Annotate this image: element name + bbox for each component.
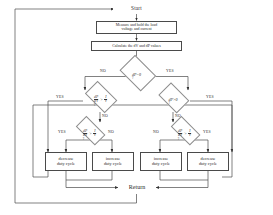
decision-2-right-query: ? [168,102,177,105]
decision-2-left-label: dP dV > I V ? [94,96,108,108]
action-decrease-duty-cycle-2: decrease duty cycle [187,152,229,171]
decision-3-right-label: dP dV > I V ? [178,130,192,142]
edge-label-d2l-no: NO [102,114,108,118]
decision-3-left-label: dP dV > I V ? [83,130,97,142]
edge-label-d2r-yes: YES [206,95,214,99]
action-4-line-2: duty cycle [199,162,217,167]
edge-label-d2l-yes: YES [56,95,64,99]
action-increase-duty-cycle-1: increase duty cycle [92,152,134,171]
edge-label-d3l-yes: YES [58,130,66,134]
decision-1-label: dP=0 ? [132,72,141,80]
flowchart-canvas: Start Measure and hold the load voltage … [0,0,273,215]
node-measure: Measure and hold the load voltage and cu… [96,21,177,35]
decision-3-right-query: ? [178,138,192,141]
frac-den: V [93,134,96,138]
action-increase-duty-cycle-2: increase duty cycle [140,152,182,171]
frac-den: V [188,134,191,138]
action-1-line-2: duty cycle [57,162,75,167]
edge-label-d3l-no: NO [108,130,114,134]
decision-2-left-query: ? [94,104,108,107]
relation-operator: > [183,131,187,136]
frac-den: V [104,100,107,104]
decision-1-query: ? [132,77,141,80]
action-2-line-2: duty cycle [104,162,122,167]
edge-label-d1-no: NO [100,69,106,73]
decision-left-slope-compare: dP dV > I V ? [82,90,119,113]
decision-row3-right: dP dV > I V ? [167,126,202,145]
calculate-label: Calculate the dV and dP values [112,44,161,48]
decision-3-left-rhs: I V [93,130,96,139]
decision-3-left-query: ? [83,138,97,141]
edge-label-d3r-yes: YES [203,130,211,134]
edge-label-d3r-no: NO [153,130,159,134]
start-label: Start [131,6,142,12]
measure-line-2: voltage and current [121,27,151,31]
node-start: Start [113,3,160,14]
return-label: Return [129,184,145,191]
relation-operator: > [99,97,103,102]
node-return: Return [118,181,156,194]
decision-row3-left: dP dV > I V ? [72,126,107,145]
action-decrease-duty-cycle-1: decrease duty cycle [45,152,87,171]
relation-operator: > [88,131,92,136]
decision-dp-equals-zero: dP=0 ? [117,62,156,90]
decision-2-right-label: dP>0 ? [168,97,177,105]
node-calculate: Calculate the dV and dP values [91,41,182,52]
decision-dp-greater-zero: dP>0 ? [156,90,190,112]
decision-2-left-rhs: I V [104,96,107,105]
edge-label-d1-yes: YES [166,69,174,73]
action-3-line-2: duty cycle [152,162,170,167]
decision-3-right-rhs: I V [188,130,191,139]
